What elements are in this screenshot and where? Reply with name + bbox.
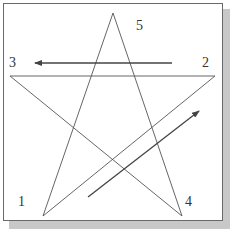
direction-arrows [35,63,199,197]
edge-5-4 [113,13,182,216]
star-edges [10,13,215,216]
vertex-label-4: 4 [185,195,192,209]
pentagram-drawing [0,0,230,229]
edge-4-3 [10,76,182,216]
vertex-label-1: 1 [18,195,25,209]
diagram-stage: 12345 [0,0,230,229]
vertex-label-3: 3 [9,56,16,70]
vertex-label-2: 2 [202,56,209,70]
vertex-label-5: 5 [136,19,143,33]
